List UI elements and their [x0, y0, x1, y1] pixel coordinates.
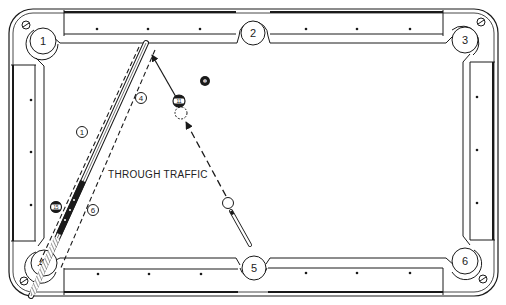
marker-4-label: 4: [139, 94, 144, 103]
marker-4: 4: [136, 93, 147, 104]
pocket-2-label: 2: [250, 27, 256, 39]
pocket-2: 2: [239, 21, 268, 45]
pocket-5-label: 5: [251, 262, 257, 274]
top-rail-right: [268, 10, 455, 43]
corner-bolts: [20, 18, 487, 285]
marker-6-label: 6: [91, 206, 96, 215]
marker-6: 6: [88, 205, 99, 216]
ball-11-number: 11: [176, 98, 181, 104]
cue-grip: [59, 181, 83, 234]
ball-8: 8: [200, 76, 210, 86]
right-rail: [463, 54, 495, 245]
object-ball-path: [152, 55, 176, 97]
top-rail-left: [52, 10, 239, 43]
cue-stick-short: [231, 211, 250, 245]
pool-table-diagram: 1 2 3 4 5 6: [0, 0, 506, 305]
ball-11: 11: [173, 95, 185, 107]
pocket-3-label: 3: [462, 34, 468, 46]
bottom-rail-left: [52, 258, 240, 295]
diagram-canvas: 1 2 3 4 5 6: [0, 0, 506, 305]
ball-15: 15: [51, 201, 62, 212]
pocket-1-label: 1: [40, 35, 46, 47]
marker-1-label: 1: [80, 128, 85, 137]
pocket-5: 5: [240, 256, 267, 280]
table-frame: [9, 9, 498, 296]
lane-right: [60, 50, 155, 270]
pocket-1: 1: [26, 28, 58, 60]
diagram-caption: THROUGH TRAFFIC: [108, 169, 208, 180]
pocket-6-label: 6: [462, 255, 468, 267]
lane-left: [38, 47, 139, 266]
marker-1: 1: [77, 127, 88, 138]
pocket-6: 6: [452, 248, 482, 280]
pocket-3: 3: [452, 26, 479, 55]
left-rail: [11, 58, 44, 246]
bottom-rail-right: [266, 258, 455, 295]
ball-15-number: 15: [53, 205, 59, 210]
cue-ball: [223, 198, 234, 209]
ghost-ball: [175, 107, 187, 119]
cue-ball-path: [186, 122, 226, 196]
